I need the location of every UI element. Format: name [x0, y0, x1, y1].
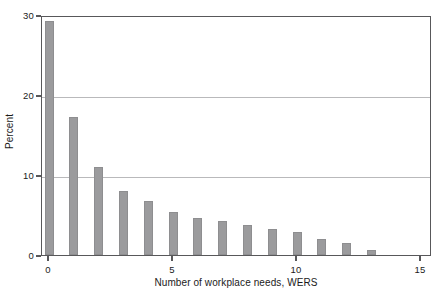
- bar: [94, 167, 103, 255]
- bar: [193, 218, 202, 255]
- y-tick-label: 0: [29, 251, 34, 261]
- bar: [293, 232, 302, 255]
- y-tick-mark: [36, 15, 41, 16]
- y-axis-title: Percent: [4, 102, 15, 162]
- bar: [144, 201, 153, 255]
- bar: [119, 191, 128, 255]
- x-tick-label: 0: [36, 264, 60, 275]
- bar: [169, 212, 178, 255]
- bar: [69, 117, 78, 255]
- x-axis-title: Number of workplace needs, WERS: [41, 277, 431, 288]
- bar: [317, 239, 326, 255]
- bar: [45, 21, 54, 255]
- bar: [218, 221, 227, 255]
- bar: [367, 250, 376, 255]
- plot-area: [41, 16, 431, 256]
- x-tick-mark: [419, 256, 420, 261]
- y-tick-mark: [36, 95, 41, 96]
- x-tick-label: 10: [284, 264, 308, 275]
- x-tick-mark: [171, 256, 172, 261]
- y-tick-mark: [36, 255, 41, 256]
- bar: [268, 229, 277, 255]
- y-tick-label: 10: [23, 171, 34, 181]
- x-tick-mark: [295, 256, 296, 261]
- bars-series: [42, 17, 430, 255]
- x-tick-mark: [47, 256, 48, 261]
- y-tick-mark: [36, 175, 41, 176]
- x-tick-label: 5: [160, 264, 184, 275]
- y-tick-label: 20: [23, 91, 34, 101]
- bar: [342, 243, 351, 255]
- x-tick-label: 15: [408, 264, 432, 275]
- bar-chart: 0102030 051015 Number of workplace needs…: [0, 0, 443, 293]
- bar: [243, 225, 252, 255]
- y-tick-label: 30: [23, 11, 34, 21]
